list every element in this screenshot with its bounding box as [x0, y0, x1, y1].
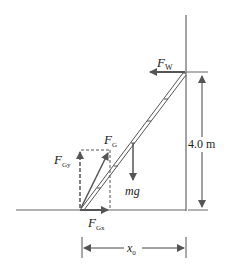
wall-force-label: FW — [156, 55, 173, 72]
ground-force-label: FG — [103, 132, 117, 149]
weight-label: mg — [125, 184, 140, 198]
base-distance-label: x0 — [126, 241, 136, 257]
ladder-free-body-diagram: FW 4.0 m FGy FG FGx mg x0 — [0, 0, 228, 275]
ground-force-x-label: FGx — [87, 215, 105, 232]
height-label: 4.0 m — [188, 137, 216, 151]
ground-force-y-label: FGy — [53, 152, 71, 169]
ground-force-arrow — [81, 153, 108, 208]
